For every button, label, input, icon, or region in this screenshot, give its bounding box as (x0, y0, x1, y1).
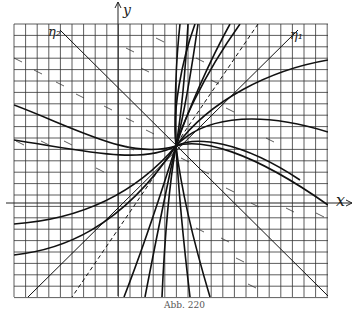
figure-caption: Abb. 220 (164, 300, 205, 310)
direction-field-diagram (0, 0, 357, 311)
y-axis-label: y (123, 2, 131, 18)
x-axis-label: x (336, 191, 345, 210)
left-line-label: η₂ (48, 24, 61, 39)
right-line-label: η₁ (290, 27, 303, 42)
